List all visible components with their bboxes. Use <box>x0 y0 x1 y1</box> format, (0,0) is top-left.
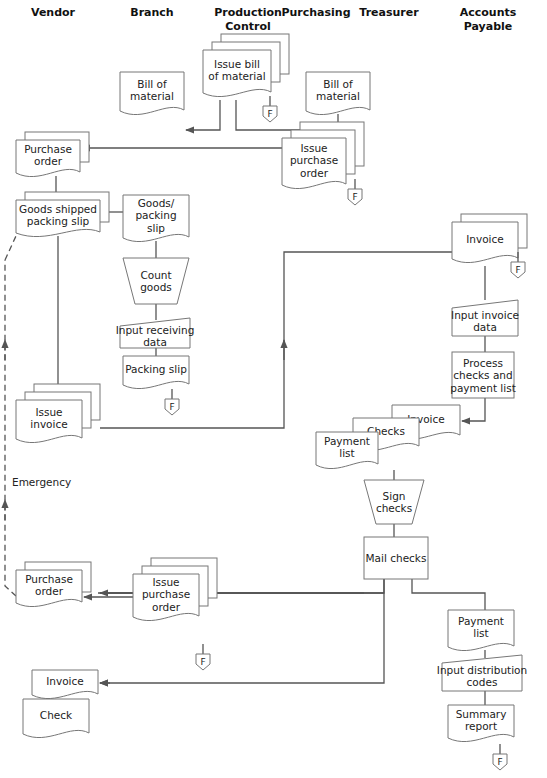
svg-text:Input distribution: Input distribution <box>437 664 527 676</box>
svg-text:Production: Production <box>214 6 282 19</box>
node-goods-shipped: Goods shippedpacking slip <box>16 192 109 237</box>
lane-header-treasurer: Treasurer <box>359 6 419 19</box>
svg-text:order: order <box>34 155 63 167</box>
svg-text:data: data <box>473 321 497 333</box>
svg-text:material: material <box>130 90 174 102</box>
svg-text:F: F <box>200 657 205 667</box>
svg-text:F: F <box>352 192 357 202</box>
svg-text:Issue: Issue <box>35 406 62 418</box>
node-input-invoice: Input invoicedata <box>451 300 519 336</box>
node-issue-invoice: Issueinvoice <box>16 384 100 443</box>
node-packing-slip: Packing slipF <box>123 356 189 415</box>
svg-text:goods: goods <box>140 281 172 293</box>
node-issue-po-branch: IssuepurchaseorderF <box>133 558 217 670</box>
svg-text:list: list <box>473 627 488 639</box>
svg-text:purchase: purchase <box>290 154 338 166</box>
svg-text:Goods/: Goods/ <box>138 197 175 209</box>
svg-text:Mail checks: Mail checks <box>366 552 427 564</box>
node-process-checks: Processchecks andpayment list <box>450 352 516 398</box>
node-payment-list-treasurer: Paymentlist <box>316 432 378 469</box>
svg-text:Bill of: Bill of <box>323 78 353 90</box>
node-count-goods: Countgoods <box>123 258 189 304</box>
node-sign-checks: Signchecks <box>364 480 424 524</box>
emergency-label: Emergency <box>12 476 71 488</box>
svg-text:codes: codes <box>467 676 498 688</box>
svg-text:Goods shipped: Goods shipped <box>19 203 97 215</box>
svg-text:packing slip: packing slip <box>27 215 90 227</box>
svg-text:Invoice: Invoice <box>466 233 504 245</box>
svg-text:Sign: Sign <box>383 490 406 502</box>
node-bom-branch: Bill ofmaterial <box>120 72 184 115</box>
svg-text:F: F <box>515 265 520 275</box>
file-icon: F <box>348 179 362 205</box>
node-emergency-po: Purchaseorder <box>16 562 91 607</box>
file-icon: F <box>263 96 277 122</box>
svg-text:Check: Check <box>40 709 73 721</box>
lane-header-production_control: ProductionControl <box>214 6 282 33</box>
svg-text:Input receiving: Input receiving <box>116 324 195 336</box>
svg-text:order: order <box>35 585 64 597</box>
svg-text:Payment: Payment <box>458 615 504 627</box>
node-summary-report: SummaryreportF <box>448 705 514 770</box>
svg-text:Payment: Payment <box>324 435 370 447</box>
svg-text:F: F <box>267 109 272 119</box>
flowchart: VendorBranchProductionControlPurchasingT… <box>0 0 547 778</box>
swimlane-headers: VendorBranchProductionControlPurchasingT… <box>31 6 517 33</box>
file-icon: F <box>196 644 210 670</box>
svg-text:order: order <box>152 601 181 613</box>
svg-text:Purchase: Purchase <box>24 143 72 155</box>
svg-text:Treasurer: Treasurer <box>359 6 419 19</box>
node-mail-checks: Mail checks <box>364 537 428 579</box>
node-po-vendor: Purchaseorder <box>16 132 89 177</box>
lane-header-purchasing: Purchasing <box>281 6 350 19</box>
svg-text:F: F <box>169 402 174 412</box>
svg-text:Summary: Summary <box>456 708 507 720</box>
svg-text:material: material <box>316 90 360 102</box>
svg-text:checks and: checks and <box>453 369 512 381</box>
svg-text:invoice: invoice <box>30 418 67 430</box>
svg-text:Packing slip: Packing slip <box>125 363 187 375</box>
svg-text:Invoice: Invoice <box>46 675 84 687</box>
svg-text:order: order <box>300 167 329 179</box>
lane-header-branch: Branch <box>130 6 173 19</box>
svg-text:Bill of: Bill of <box>137 78 167 90</box>
svg-text:Input invoice: Input invoice <box>451 309 519 321</box>
node-bom-purchasing: Bill ofmaterial <box>306 72 370 115</box>
shapes: EmergencyIssue billof materialFBill ofma… <box>12 34 527 770</box>
file-icon: F <box>165 389 179 415</box>
node-payment-list-ap: Paymentlist <box>448 610 514 651</box>
node-invoice-ap: InvoiceF <box>452 214 527 278</box>
svg-text:Process: Process <box>463 357 503 369</box>
node-issue-po-purchasing: IssuepurchaseorderF <box>282 122 364 205</box>
svg-text:slip: slip <box>147 222 165 234</box>
svg-text:F: F <box>497 757 502 767</box>
svg-text:list: list <box>339 447 354 459</box>
svg-text:Branch: Branch <box>130 6 173 19</box>
svg-text:report: report <box>465 720 497 732</box>
svg-text:Count: Count <box>140 269 171 281</box>
svg-text:Issue: Issue <box>152 576 179 588</box>
lane-header-vendor: Vendor <box>31 6 76 19</box>
svg-text:checks: checks <box>376 502 412 514</box>
svg-text:Issue: Issue <box>300 142 327 154</box>
svg-text:Accounts: Accounts <box>460 6 517 19</box>
svg-text:Purchasing: Purchasing <box>281 6 350 19</box>
node-issue-bom: Issue billof materialF <box>203 34 289 122</box>
svg-text:purchase: purchase <box>142 588 190 600</box>
file-icon: F <box>493 744 507 770</box>
svg-text:Payable: Payable <box>464 20 513 33</box>
node-goods-packing-slip: Goods/packingslip <box>123 195 189 242</box>
svg-text:Control: Control <box>225 20 270 33</box>
svg-text:packing: packing <box>135 209 176 221</box>
node-check-vendor: Check <box>23 699 89 738</box>
lane-header-accounts_payable: AccountsPayable <box>460 6 517 33</box>
svg-text:Issue bill: Issue bill <box>214 58 260 70</box>
svg-text:payment list: payment list <box>450 382 516 394</box>
svg-text:Purchase: Purchase <box>25 573 73 585</box>
node-input-distribution: Input distributioncodes <box>437 655 527 691</box>
node-invoice-vendor: Invoice <box>32 670 98 699</box>
svg-text:data: data <box>143 336 167 348</box>
svg-text:of material: of material <box>208 70 265 82</box>
svg-text:Vendor: Vendor <box>31 6 76 19</box>
node-input-receiving: Input receivingdata <box>116 318 195 348</box>
